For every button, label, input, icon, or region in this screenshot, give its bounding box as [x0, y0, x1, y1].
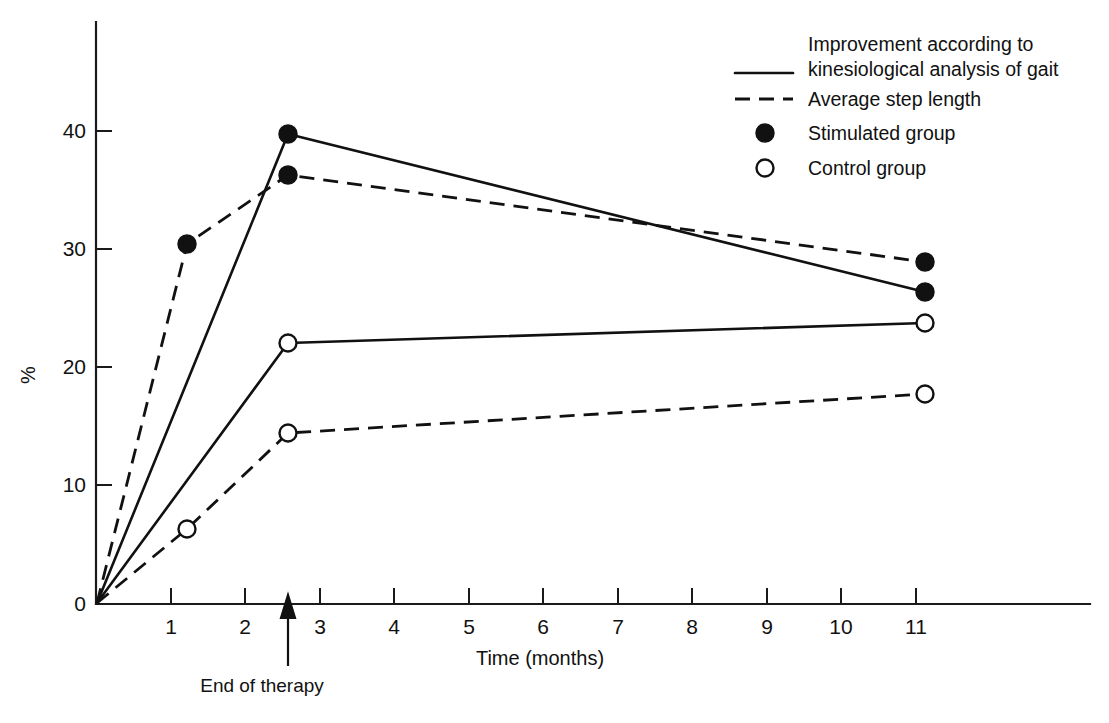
x-tick-label-1: 1 [165, 615, 177, 638]
x-tick-label-3: 3 [314, 615, 326, 638]
series-line [97, 175, 925, 603]
data-point [917, 315, 934, 332]
legend-label-stimulated-group: Stimulated group [808, 122, 956, 144]
series-improvement-control [97, 315, 934, 604]
y-axis-tick-labels: 0 10 20 30 40 [63, 119, 86, 615]
x-tick-label-9: 9 [761, 615, 773, 638]
data-point [279, 125, 297, 143]
end-of-therapy-annotation: End of therapy [200, 595, 324, 696]
data-point [179, 521, 196, 538]
x-axis-title: Time (months) [476, 647, 604, 669]
chart-legend: Improvement according to kinesiological … [735, 33, 1059, 179]
x-tick-label-8: 8 [686, 615, 698, 638]
legend-symbol-open-circle [757, 160, 774, 177]
series-line [97, 134, 925, 603]
y-axis-ticks [96, 131, 112, 604]
data-point [280, 335, 297, 352]
line-chart-canvas: 0 10 20 30 40 % 1 2 3 4 5 6 [0, 0, 1109, 723]
series-line [97, 323, 925, 603]
x-tick-label-5: 5 [463, 615, 475, 638]
y-tick-label-20: 20 [63, 355, 86, 378]
x-tick-label-6: 6 [537, 615, 549, 638]
legend-symbol-filled-circle [756, 124, 774, 142]
series-line [97, 394, 925, 603]
annotation-label: End of therapy [200, 675, 324, 696]
series-steplength-control [97, 386, 934, 604]
y-axis-title: % [17, 366, 39, 384]
y-tick-label-40: 40 [63, 119, 86, 142]
data-point [280, 425, 297, 442]
legend-label-control-group: Control group [808, 157, 926, 179]
series-steplength-stimulated [97, 166, 934, 603]
x-tick-label-11: 11 [905, 615, 927, 638]
x-axis-tick-labels: 1 2 3 4 5 6 7 8 9 10 11 [165, 615, 927, 638]
data-point [916, 253, 934, 271]
x-tick-label-10: 10 [829, 615, 852, 638]
data-point [279, 166, 297, 184]
data-point [916, 283, 934, 301]
chart-figure: 0 10 20 30 40 % 1 2 3 4 5 6 [0, 0, 1109, 723]
y-tick-label-0: 0 [74, 592, 86, 615]
legend-label-improvement-line2: kinesiological analysis of gait [808, 58, 1059, 80]
x-axis-ticks [171, 588, 916, 604]
y-tick-label-10: 10 [63, 473, 86, 496]
y-tick-label-30: 30 [63, 237, 86, 260]
x-tick-label-2: 2 [239, 615, 251, 638]
x-tick-label-7: 7 [612, 615, 624, 638]
annotation-arrow-head [281, 595, 295, 618]
data-point [917, 386, 934, 403]
series-improvement-stimulated [97, 125, 934, 603]
x-tick-label-4: 4 [388, 615, 400, 638]
data-point [178, 235, 196, 253]
legend-label-average-step-length: Average step length [808, 88, 981, 110]
legend-label-improvement-line1: Improvement according to [808, 33, 1034, 55]
